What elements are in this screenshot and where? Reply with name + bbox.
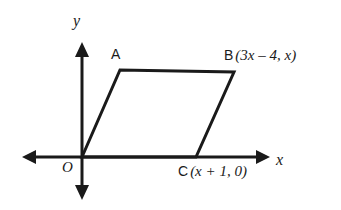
vertex-label-a: A: [111, 47, 120, 61]
parallelogram-outline: [82, 70, 234, 157]
diagram-canvas: [0, 0, 341, 210]
vertex-label-b-coords: (3x – 4, x): [235, 47, 296, 63]
y-axis-top-arrowhead: [75, 42, 89, 57]
origin-label: O: [62, 160, 73, 175]
y-axis: [75, 42, 89, 200]
vertex-label-b-point: B: [224, 47, 233, 63]
vertex-label-c-point: C: [178, 163, 188, 179]
coordinate-diagram: A B(3x – 4, x) C(x + 1, 0) O x y: [0, 0, 341, 210]
x-axis-label: x: [276, 152, 283, 168]
y-axis-label: y: [73, 13, 80, 29]
vertex-label-b: B(3x – 4, x): [224, 47, 296, 63]
x-axis-right-arrowhead: [256, 150, 270, 164]
vertex-label-c-coords: (x + 1, 0): [190, 163, 247, 179]
vertex-label-c: C(x + 1, 0): [178, 163, 247, 179]
y-axis-bottom-arrowhead: [75, 185, 89, 200]
x-axis-left-arrowhead: [22, 150, 36, 164]
parallelogram-shape: [82, 70, 234, 157]
